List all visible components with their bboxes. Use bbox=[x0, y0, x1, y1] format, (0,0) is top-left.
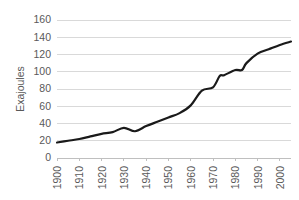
y-axis-tick-label: 140 bbox=[33, 31, 51, 43]
line-chart: 020406080100120140160 190019101920193019… bbox=[0, 0, 299, 200]
chart-figure: 020406080100120140160 190019101920193019… bbox=[0, 0, 299, 200]
y-axis-tick-label: 120 bbox=[33, 48, 51, 60]
x-axis-tick-label: 1980 bbox=[229, 166, 241, 190]
x-axis-tick-label: 1900 bbox=[51, 166, 63, 190]
x-axis-tick-label: 1930 bbox=[118, 166, 130, 190]
y-axis-title: Exajoules bbox=[14, 66, 26, 112]
y-axis-tick-label: 160 bbox=[33, 13, 51, 25]
x-axis-tick-label: 1970 bbox=[207, 166, 219, 190]
y-axis-tick-label: 40 bbox=[39, 117, 51, 129]
y-axis-tick-label: 0 bbox=[45, 151, 51, 163]
x-axis-tick-label: 1940 bbox=[140, 166, 152, 190]
y-axis-tick-label: 20 bbox=[39, 134, 51, 146]
gridlines bbox=[57, 20, 291, 158]
y-axis-tick-labels: 020406080100120140160 bbox=[33, 13, 51, 163]
data-series-line bbox=[57, 42, 291, 143]
x-axis-tick-label: 1950 bbox=[162, 166, 174, 190]
x-axis-tick-label: 2000 bbox=[274, 166, 286, 190]
y-axis-tick-label: 80 bbox=[39, 82, 51, 94]
y-axis-tick-label: 60 bbox=[39, 100, 51, 112]
x-axis-tick-label: 1910 bbox=[73, 166, 85, 190]
x-axis-tick-labels: 1900191019201930194019501960197019801990… bbox=[51, 166, 286, 190]
x-axis-tick-label: 1920 bbox=[96, 166, 108, 190]
x-axis-tick-label: 1990 bbox=[252, 166, 264, 190]
x-axis-tick-label: 1960 bbox=[185, 166, 197, 190]
y-axis-tick-label: 100 bbox=[33, 65, 51, 77]
